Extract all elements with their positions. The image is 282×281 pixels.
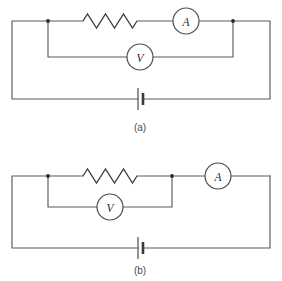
- junction-dot-right-a: [231, 19, 235, 23]
- ammeter-b: A: [205, 163, 231, 189]
- ammeter-label-a: A: [181, 16, 190, 28]
- junction-dot-left-b: [46, 174, 50, 178]
- ammeter-label-b: A: [213, 171, 222, 183]
- junction-dot-left-a: [46, 19, 50, 23]
- caption-b: (b): [134, 265, 146, 276]
- circuit-b-outer-loop: [12, 176, 270, 248]
- junction-dot-right-b: [170, 174, 174, 178]
- ammeter-a: A: [173, 8, 199, 34]
- circuit-a: A V (a): [12, 8, 270, 133]
- caption-a: (a): [134, 122, 146, 133]
- resistor-a: [83, 14, 137, 28]
- circuit-figure: A V (a): [0, 0, 282, 281]
- voltmeter-a: V: [127, 44, 153, 70]
- battery-a: [138, 88, 143, 110]
- voltmeter-b: V: [97, 194, 123, 220]
- circuit-b-top-branch: [48, 169, 270, 183]
- circuit-a-top-branch: [48, 14, 233, 28]
- outer-loop-path-b: [12, 176, 270, 248]
- battery-b: [138, 237, 143, 259]
- circuit-b: A V (b): [12, 163, 270, 276]
- resistor-b: [83, 169, 137, 183]
- circuit-diagram-canvas: A V (a): [0, 0, 282, 281]
